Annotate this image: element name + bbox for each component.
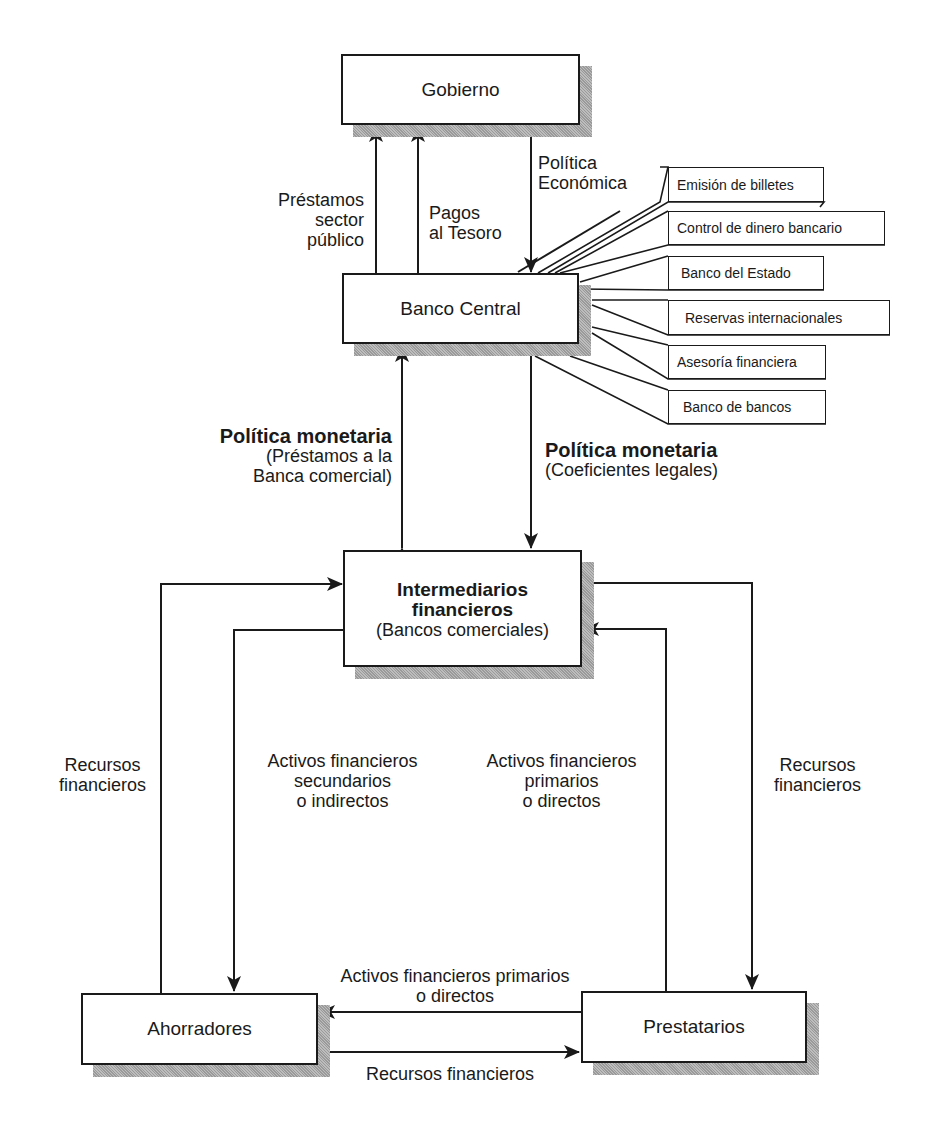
function-reservas: Reservas internacionales <box>668 300 890 335</box>
node-banco-central: Banco Central <box>342 273 579 344</box>
intermediarios-subtitle: (Bancos comerciales) <box>376 620 549 640</box>
label-line: sector <box>258 210 364 230</box>
label-line: al Tesoro <box>429 223 502 243</box>
label-politica-monetaria-left: Política monetaria (Préstamos a la Banca… <box>170 426 392 486</box>
label-title: Política monetaria <box>170 426 392 446</box>
label-line: (Préstamos a la <box>170 446 392 466</box>
node-gobierno: Gobierno <box>341 54 580 125</box>
node-prestatarios-label: Prestatarios <box>643 1016 744 1038</box>
label-line: Préstamos <box>258 190 364 210</box>
node-gobierno-label: Gobierno <box>421 79 499 101</box>
label-politica-economica: Política Económica <box>538 153 627 193</box>
node-intermediarios: Intermediarios financieros (Bancos comer… <box>343 550 582 667</box>
label-line: Recursos <box>765 755 870 775</box>
label-line: o directos <box>469 791 654 811</box>
function-emision-billetes: Emisión de billetes <box>668 167 824 202</box>
label-pagos-tesoro: Pagos al Tesoro <box>429 203 502 243</box>
label-line: Económica <box>538 173 627 193</box>
function-asesoria: Asesoría financiera <box>668 345 826 379</box>
node-ahorradores: Ahorradores <box>81 993 318 1065</box>
label-activos-secundarios: Activos financieros secundarios o indire… <box>250 751 435 811</box>
label-line: financieros <box>50 775 155 795</box>
label-line: Recursos <box>50 755 155 775</box>
function-control-dinero: Control de dinero bancario <box>668 211 885 245</box>
label-recursos-right: Recursos financieros <box>765 755 870 795</box>
label-line: primarios <box>469 771 654 791</box>
function-label: Emisión de billetes <box>677 177 794 193</box>
label-line: Recursos financieros <box>340 1064 560 1084</box>
node-prestatarios: Prestatarios <box>581 991 807 1063</box>
function-banco-estado: Banco del Estado <box>668 256 824 290</box>
label-line: Activos financieros <box>250 751 435 771</box>
label-line: o indirectos <box>250 791 435 811</box>
node-ahorradores-label: Ahorradores <box>147 1018 252 1040</box>
node-banco-central-label: Banco Central <box>400 298 520 320</box>
function-label: Reservas internacionales <box>685 310 842 326</box>
function-label: Banco del Estado <box>681 265 791 281</box>
label-line: (Coeficientes legales) <box>545 460 718 480</box>
label-activos-primarios-vertical: Activos financieros primarios o directos <box>469 751 654 811</box>
label-prestamos-sector-publico: Préstamos sector público <box>258 190 364 250</box>
function-label: Asesoría financiera <box>677 354 797 370</box>
label-line: público <box>258 230 364 250</box>
label-line: financieros <box>765 775 870 795</box>
label-recursos-bottom: Recursos financieros <box>340 1064 560 1084</box>
function-label: Banco de bancos <box>683 399 791 415</box>
label-line: o directos <box>315 986 595 1006</box>
label-line: Banca comercial) <box>170 466 392 486</box>
label-politica-monetaria-right: Política monetaria (Coeficientes legales… <box>545 440 718 480</box>
intermediarios-title-2: financieros <box>412 600 513 620</box>
label-line: Activos financieros primarios <box>315 966 595 986</box>
label-line: Política <box>538 153 627 173</box>
function-label: Control de dinero bancario <box>677 220 842 236</box>
label-title: Política monetaria <box>545 440 718 460</box>
intermediarios-title-1: Intermediarios <box>397 580 528 600</box>
label-line: Activos financieros <box>469 751 654 771</box>
label-line: secundarios <box>250 771 435 791</box>
label-line: Pagos <box>429 203 502 223</box>
function-banco-bancos: Banco de bancos <box>668 390 826 424</box>
label-activos-primarios-bottom: Activos financieros primarios o directos <box>315 966 595 1006</box>
label-recursos-left: Recursos financieros <box>50 755 155 795</box>
